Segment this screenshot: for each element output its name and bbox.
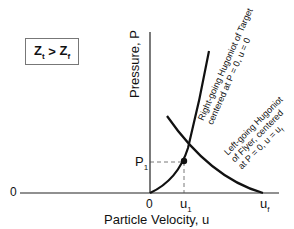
p1-label: P1 [135,154,148,172]
greater-than: > [48,44,56,59]
x-zero-label: 0 [146,197,153,211]
impedance-condition-box: Zt > Zf [25,38,79,65]
z-flyer: Zf [59,43,70,61]
y-axis-label: Pressure, P [127,30,142,98]
intersection-point [181,158,187,164]
hugoniot-impedance-diagram: Zt > Zf Pressure, P 0 0 P1 u1 uf Particl… [0,0,294,229]
y-zero-label: 0 [10,185,17,199]
u1-label: u1 [180,196,192,214]
x-axis-label: Particle Velocity, u [104,212,209,227]
z-target: Zt [34,43,45,61]
target-hugoniot-curve [150,51,209,193]
uf-label: uf [260,196,269,214]
